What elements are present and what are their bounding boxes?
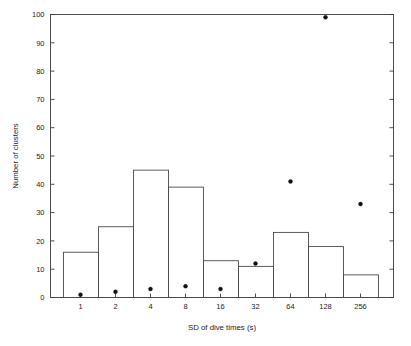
y-tick-label: 100: [32, 10, 45, 19]
histogram-bar: [169, 187, 204, 297]
data-point-marker: [149, 287, 153, 291]
histogram-bar: [344, 275, 379, 298]
y-tick-label: 50: [36, 152, 44, 161]
histogram-bar: [64, 252, 99, 297]
histogram-bar: [204, 261, 239, 298]
y-tick-label: 80: [36, 67, 44, 76]
y-tick-label: 20: [36, 237, 44, 246]
x-tick-label: 32: [251, 302, 259, 311]
x-tick-label: 1: [78, 302, 82, 311]
x-tick-label: 4: [148, 302, 152, 311]
y-tick-label: 0: [40, 293, 44, 302]
y-tick-label: 60: [36, 123, 44, 132]
y-tick-label: 40: [36, 180, 44, 189]
data-point-marker: [79, 293, 83, 297]
data-point-marker: [219, 287, 223, 291]
bar-series: [64, 170, 379, 297]
y-tick-label: 90: [36, 39, 44, 48]
data-point-marker: [359, 202, 363, 206]
x-axis-ticks: 1248163264128256: [78, 294, 366, 311]
histogram-chart: 0102030405060708090100 1248163264128256 …: [0, 0, 411, 346]
scatter-overlay-series: [79, 15, 363, 296]
x-tick-label: 128: [319, 302, 332, 311]
y-axis-title: Number of clusters: [11, 123, 20, 189]
x-tick-label: 16: [216, 302, 224, 311]
x-axis-title: SD of dive times (s): [188, 323, 256, 332]
chart-figure: 0102030405060708090100 1248163264128256 …: [0, 0, 411, 346]
plot-frame: [51, 15, 394, 298]
histogram-bar: [309, 247, 344, 298]
histogram-bar: [239, 266, 274, 297]
data-point-marker: [289, 179, 293, 183]
x-tick-label: 64: [286, 302, 294, 311]
y-tick-label: 10: [36, 265, 44, 274]
data-point-marker: [324, 15, 328, 19]
y-tick-label: 30: [36, 208, 44, 217]
data-point-marker: [184, 284, 188, 288]
histogram-bar: [274, 232, 309, 297]
data-point-marker: [254, 262, 258, 266]
y-tick-label: 70: [36, 95, 44, 104]
histogram-bar: [134, 170, 169, 297]
y-axis-ticks: 0102030405060708090100: [32, 10, 394, 302]
x-tick-label: 8: [183, 302, 187, 311]
x-tick-label: 256: [354, 302, 367, 311]
x-tick-label: 2: [113, 302, 117, 311]
data-point-marker: [114, 290, 118, 294]
histogram-bar: [99, 227, 134, 298]
